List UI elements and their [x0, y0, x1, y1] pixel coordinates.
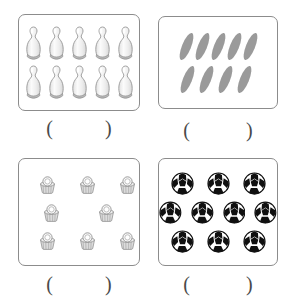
- object-box-1: [18, 14, 140, 111]
- object-row: [159, 65, 277, 94]
- bowling-pin-icon: [93, 64, 112, 100]
- leaf-icon: [178, 64, 197, 94]
- bowling-pin-icon: [116, 25, 135, 61]
- leaf-icon: [192, 31, 211, 61]
- leaf-icon: [240, 31, 259, 61]
- question-1: ( ): [18, 14, 140, 148]
- answer-blank-1[interactable]: ( ): [18, 118, 140, 138]
- object-group-bowling-pins: [19, 15, 139, 110]
- open-paren: (: [46, 274, 53, 294]
- cupcake-icon: [37, 231, 58, 250]
- soccer-ball-icon: [207, 230, 230, 253]
- object-row: [19, 203, 139, 222]
- question-4: ( ): [158, 158, 278, 294]
- object-row: [159, 201, 277, 224]
- close-paren: ): [105, 118, 112, 138]
- object-box-4: [158, 158, 278, 266]
- object-row: [19, 25, 139, 61]
- object-row: [19, 231, 155, 250]
- object-box-3: [18, 158, 140, 266]
- soccer-ball-icon: [171, 230, 194, 253]
- soccer-ball-icon: [243, 230, 266, 253]
- cupcake-icon: [37, 175, 58, 194]
- question-2: ( ): [158, 16, 278, 148]
- object-group-leaves: [159, 17, 277, 108]
- answer-blank-2[interactable]: ( ): [158, 120, 278, 140]
- soccer-ball-icon: [171, 172, 194, 195]
- object-row: [19, 64, 139, 100]
- object-row: [159, 172, 277, 195]
- object-group-cupcakes: [19, 159, 139, 265]
- soccer-ball-icon: [223, 201, 246, 224]
- bowling-pin-icon: [24, 64, 43, 100]
- open-paren: (: [183, 120, 190, 140]
- bowling-pin-icon: [24, 25, 43, 61]
- open-paren: (: [46, 118, 53, 138]
- cupcake-icon: [117, 231, 138, 250]
- cupcake-icon: [96, 203, 117, 222]
- cupcake-icon: [77, 175, 98, 194]
- leaf-icon: [176, 31, 195, 61]
- answer-blank-3[interactable]: ( ): [18, 274, 140, 294]
- bowling-pin-icon: [47, 64, 66, 100]
- close-paren: ): [246, 274, 253, 294]
- close-paren: ): [105, 274, 112, 294]
- object-row: [159, 32, 277, 61]
- bowling-pin-icon: [70, 25, 89, 61]
- cupcake-icon: [41, 203, 62, 222]
- worksheet: ( ): [0, 0, 287, 306]
- leaf-icon: [208, 31, 227, 61]
- leaf-icon: [197, 64, 216, 94]
- cupcake-icon: [77, 231, 98, 250]
- soccer-ball-icon: [159, 201, 182, 224]
- close-paren: ): [246, 120, 253, 140]
- open-paren: (: [183, 274, 190, 294]
- bowling-pin-icon: [93, 25, 112, 61]
- bowling-pin-icon: [47, 25, 66, 61]
- object-box-2: [158, 16, 278, 109]
- object-group-soccer-balls: [159, 159, 277, 265]
- cupcake-icon: [117, 175, 138, 194]
- bowling-pin-icon: [116, 64, 135, 100]
- object-row: [19, 175, 155, 194]
- leaf-icon: [216, 64, 235, 94]
- leaf-icon: [235, 64, 254, 94]
- soccer-ball-icon: [191, 201, 214, 224]
- soccer-ball-icon: [243, 172, 266, 195]
- question-3: ( ): [18, 158, 140, 294]
- object-row: [159, 230, 277, 253]
- soccer-ball-icon: [207, 172, 230, 195]
- bowling-pin-icon: [70, 64, 89, 100]
- leaf-icon: [224, 31, 243, 61]
- answer-blank-4[interactable]: ( ): [158, 274, 278, 294]
- soccer-ball-icon: [254, 201, 277, 224]
